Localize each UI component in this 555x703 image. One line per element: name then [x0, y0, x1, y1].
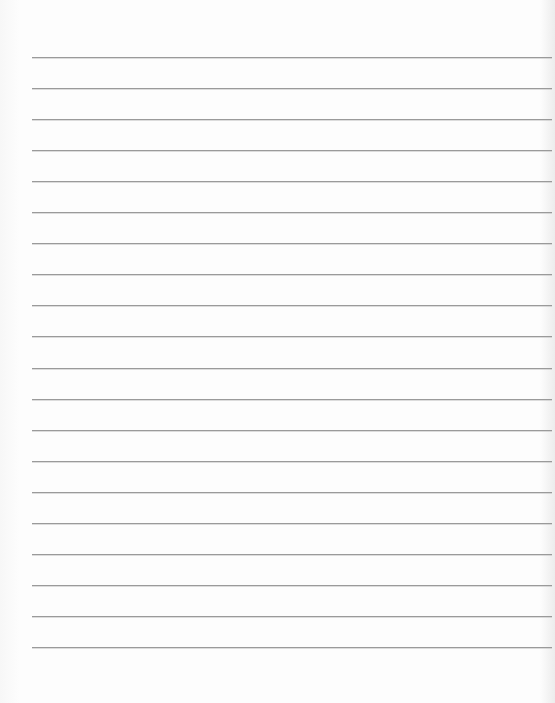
ruled-line [32, 88, 552, 89]
ruled-line [32, 647, 552, 648]
ruled-line [32, 368, 552, 369]
ruled-line [32, 399, 552, 400]
ruled-line [32, 616, 552, 617]
ruled-line [32, 305, 552, 306]
ruled-line [32, 336, 552, 337]
ruled-line [32, 430, 552, 431]
ruled-line [32, 274, 552, 275]
ruled-line [32, 461, 552, 462]
ruled-line [32, 492, 552, 493]
ruled-line [32, 554, 552, 555]
ruled-line [32, 119, 552, 120]
ruled-line [32, 523, 552, 524]
lined-paper [0, 0, 555, 703]
ruled-line [32, 243, 552, 244]
ruled-line [32, 57, 552, 58]
ruled-line [32, 585, 552, 586]
ruled-line [32, 150, 552, 151]
ruled-line [32, 181, 552, 182]
ruled-line [32, 212, 552, 213]
